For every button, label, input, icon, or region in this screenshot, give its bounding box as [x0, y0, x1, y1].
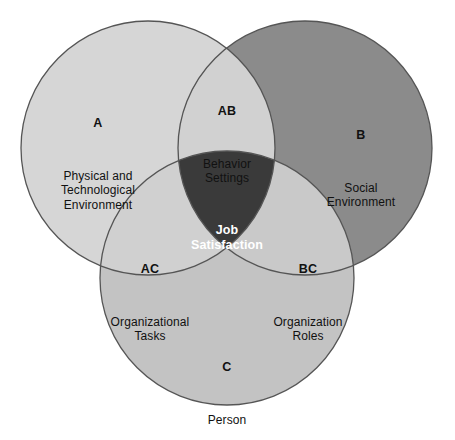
venn-diagram: A Physical and Technological Environment…	[0, 0, 455, 440]
venn-diagram-canvas	[0, 0, 455, 440]
